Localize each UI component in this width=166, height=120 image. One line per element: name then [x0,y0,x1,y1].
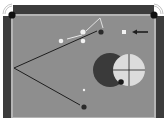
square-marker [122,30,126,34]
contact-ball [118,79,124,85]
object-ball-top [98,29,103,34]
top-rail [13,5,154,14]
small-marker [83,89,85,91]
table-canvas [0,0,166,120]
white-ball-2 [80,29,85,34]
right-rail [156,16,164,118]
top-left-pocket [8,11,15,18]
object-ball-bottom [81,104,86,109]
white-ball-3 [81,39,86,44]
left-rail [3,16,11,118]
white-ball-1 [59,39,64,44]
pool-table-diagram [0,0,166,120]
top-right-pocket [150,11,157,18]
